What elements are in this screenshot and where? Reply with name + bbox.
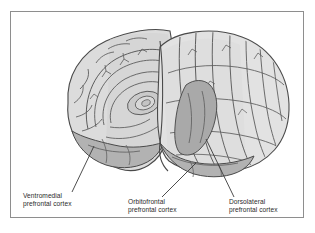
brain-illustration <box>10 11 304 218</box>
lateral-hemisphere <box>157 31 289 177</box>
label-line-1: Ventromedial <box>23 192 72 200</box>
label-line-2: prefrontal cortex <box>128 206 177 214</box>
label-line-2: prefrontal cortex <box>229 206 278 214</box>
label-line-1: Dorsolateral <box>229 198 278 206</box>
label-orbitofrontal-prefrontal-cortex: Orbitofrontal prefrontal cortex <box>128 198 177 214</box>
label-dorsolateral-prefrontal-cortex: Dorsolateral prefrontal cortex <box>229 198 278 214</box>
brain-figure: Ventromedial prefrontal cortex Orbitofro… <box>0 0 315 233</box>
label-line-1: Orbitofrontal <box>128 198 177 206</box>
label-ventromedial-prefrontal-cortex: Ventromedial prefrontal cortex <box>23 192 72 208</box>
leader-line-ventromedial <box>72 146 94 192</box>
leader-line-orbitofrontal <box>162 163 196 197</box>
label-line-2: prefrontal cortex <box>23 200 72 208</box>
